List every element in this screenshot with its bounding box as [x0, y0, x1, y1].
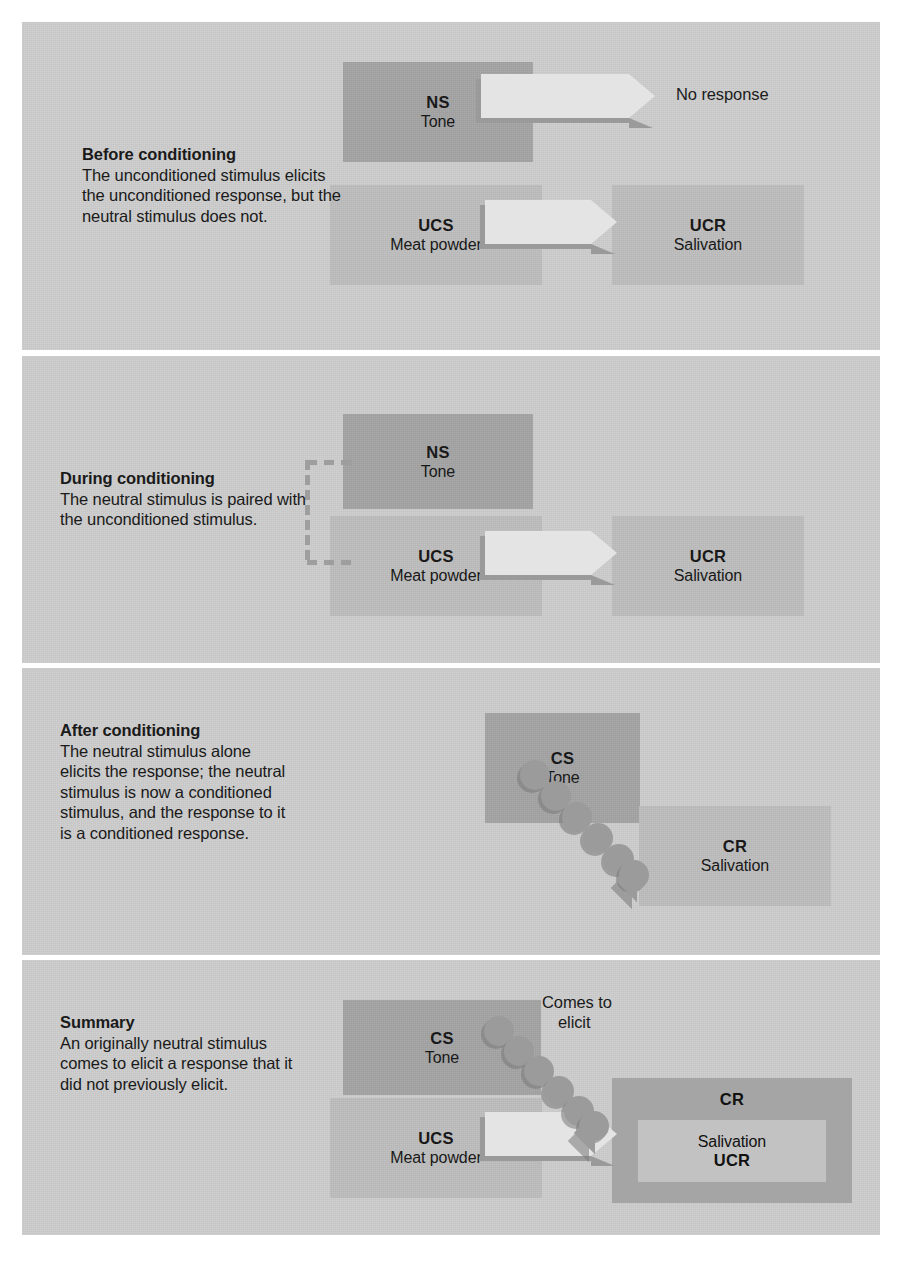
- label-no-response: No response: [676, 84, 768, 104]
- panel-before-conditioning: Before conditioning The unconditioned st…: [22, 22, 880, 350]
- box-abbr-ucs-before: UCS: [418, 216, 454, 235]
- box-abbr-ucs-during: UCS: [418, 547, 454, 566]
- box-full-ucr-before: Salivation: [674, 235, 742, 254]
- caption-during-conditioning: During conditioning The neutral stimulus…: [60, 468, 312, 530]
- box-full-ucs-before: Meat powder: [390, 235, 481, 254]
- caption-body-during: The neutral stimulus is paired with the …: [60, 489, 312, 530]
- dotted-diagonal-arrow-summary: [22, 960, 880, 1235]
- box-abbr-ns-before: NS: [426, 93, 450, 112]
- caption-title-during: During conditioning: [60, 468, 312, 489]
- box-ucr-before: UCR Salivation: [612, 185, 804, 285]
- caption-title-before: Before conditioning: [82, 144, 344, 165]
- block-arrow-ucs-to-ucr: [485, 200, 615, 244]
- caption-before-conditioning: Before conditioning The unconditioned st…: [82, 144, 344, 226]
- box-ucr-during: UCR Salivation: [612, 516, 804, 616]
- dotted-diagonal-arrow-after: [22, 668, 880, 955]
- box-ns-during: NS Tone: [343, 414, 533, 509]
- pairing-bracket: [305, 460, 353, 560]
- panel-summary: Summary An originally neutral stimulus c…: [22, 960, 880, 1235]
- box-full-ucs-during: Meat powder: [390, 566, 481, 585]
- box-full-ucr-during: Salivation: [674, 566, 742, 585]
- box-full-ns-during: Tone: [421, 462, 455, 481]
- box-abbr-ucr-before: UCR: [690, 216, 727, 235]
- caption-body-before: The unconditioned stimulus elicits the u…: [82, 165, 344, 227]
- block-arrow-ucs-to-ucr-during: [485, 531, 615, 575]
- panel-after-conditioning: After conditioning The neutral stimulus …: [22, 668, 880, 955]
- classical-conditioning-figure: Before conditioning The unconditioned st…: [0, 0, 902, 1268]
- box-abbr-ucr-during: UCR: [690, 547, 727, 566]
- box-full-ns-before: Tone: [421, 112, 455, 131]
- panel-during-conditioning: During conditioning The neutral stimulus…: [22, 356, 880, 663]
- block-arrow-ns-to-no-response: [481, 74, 655, 118]
- box-abbr-ns-during: NS: [426, 443, 450, 462]
